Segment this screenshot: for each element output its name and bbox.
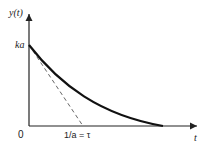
y-axis-label: y(t) xyxy=(9,8,23,18)
tau-label: 1/a = τ xyxy=(64,131,90,140)
tangent-dashed-line xyxy=(29,45,83,126)
t-axis-label: t xyxy=(194,133,197,143)
ka-label: ka xyxy=(15,40,24,50)
origin-label: 0 xyxy=(18,130,24,140)
plot-area xyxy=(0,0,208,147)
decay-curve xyxy=(29,45,163,126)
